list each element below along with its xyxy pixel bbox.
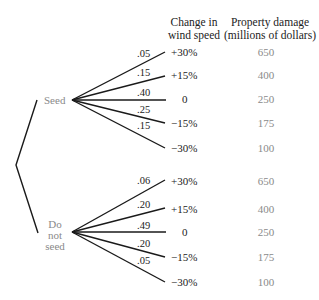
- damage-value: 650: [246, 176, 286, 187]
- probability-label: .20: [137, 239, 150, 250]
- probability-label: .05: [137, 256, 150, 267]
- header-line: wind speed: [161, 29, 227, 42]
- node-label-do-not-seed: Do not seed: [40, 219, 70, 252]
- header-line: Change in: [161, 16, 227, 29]
- wind-change-label: +15%: [171, 70, 197, 81]
- damage-value: 100: [246, 277, 286, 288]
- probability-label: .15: [137, 68, 150, 79]
- decision-tree: Change in wind speed Property damage (mi…: [0, 0, 319, 300]
- node-label-line: seed: [40, 241, 70, 252]
- damage-value: 250: [246, 227, 286, 238]
- damage-value: 400: [246, 70, 286, 81]
- probability-label: .15: [137, 121, 150, 132]
- header-wind-speed: Change in wind speed: [161, 16, 227, 42]
- wind-change-label: +30%: [171, 176, 197, 187]
- header-property-damage: Property damage (millions of dollars): [220, 16, 319, 42]
- wind-change-label: −30%: [171, 143, 197, 154]
- damage-value: 400: [246, 204, 286, 215]
- damage-value: 250: [246, 94, 286, 105]
- damage-value: 175: [246, 118, 286, 129]
- probability-label: .06: [137, 176, 150, 187]
- probability-label: .25: [137, 105, 150, 116]
- damage-value: 100: [246, 143, 286, 154]
- wind-change-label: −15%: [171, 118, 197, 129]
- node-label-line: Seed: [44, 95, 65, 106]
- wind-change-label: −15%: [171, 252, 197, 263]
- wind-change-label: 0: [182, 94, 188, 105]
- wind-change-label: +15%: [171, 204, 197, 215]
- probability-label: .20: [137, 200, 150, 211]
- root-branch-lines: [16, 100, 38, 233]
- wind-change-label: −30%: [171, 277, 197, 288]
- probability-label: .05: [137, 49, 150, 60]
- wind-change-label: 0: [182, 227, 188, 238]
- header-line: (millions of dollars): [220, 29, 319, 42]
- do-not-seed-branch-lines: [72, 180, 166, 282]
- probability-label: .40: [137, 88, 150, 99]
- node-label-seed: Seed: [44, 95, 65, 106]
- seed-branch-lines: [72, 52, 166, 148]
- wind-change-label: +30%: [171, 47, 197, 58]
- header-line: Property damage: [220, 16, 319, 29]
- damage-value: 650: [246, 47, 286, 58]
- probability-label: .49: [137, 221, 150, 232]
- damage-value: 175: [246, 252, 286, 263]
